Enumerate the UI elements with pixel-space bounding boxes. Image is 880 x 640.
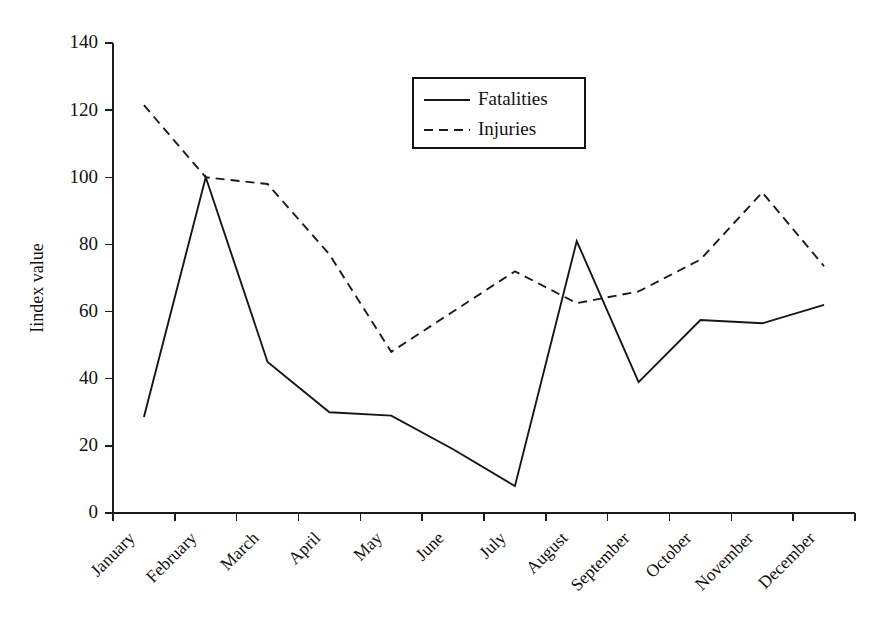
line-chart: 020406080100120140 Iindex value JanuaryF… [0, 0, 880, 640]
x-tick-label: December [754, 528, 819, 593]
chart-container: 020406080100120140 Iindex value JanuaryF… [0, 0, 880, 640]
x-tick-label: March [216, 528, 263, 575]
x-tick-label: April [284, 528, 324, 568]
legend: Fatalities Injuries [413, 78, 585, 148]
x-tick-label: June [411, 528, 448, 565]
x-tick-label: August [522, 528, 572, 578]
x-tick-label: July [475, 528, 510, 563]
x-tick-label: October [641, 528, 695, 582]
x-axis-ticks [113, 513, 855, 521]
y-axis-title: Iindex value [27, 243, 47, 332]
y-tick-label: 0 [89, 501, 99, 522]
y-tick-label: 100 [70, 166, 99, 187]
y-axis-group: 020406080100120140 Iindex value [27, 31, 113, 522]
data-series-group [144, 105, 824, 486]
legend-label-injuries: Injuries [478, 118, 536, 139]
x-tick-label: November [691, 528, 757, 594]
x-tick-label: February [142, 528, 201, 587]
y-tick-label: 20 [79, 434, 98, 455]
x-axis-tick-labels: JanuaryFebruaryMarchAprilMayJuneJulyAugu… [86, 528, 819, 595]
y-tick-label: 80 [79, 233, 98, 254]
x-tick-label: January [86, 528, 139, 581]
x-tick-label: May [349, 528, 386, 565]
x-axis-group: JanuaryFebruaryMarchAprilMayJuneJulyAugu… [86, 513, 855, 595]
y-tick-label: 140 [70, 31, 99, 52]
series-line-fatalities [144, 177, 824, 486]
y-tick-label: 40 [79, 367, 98, 388]
legend-label-fatalities: Fatalities [478, 88, 548, 109]
x-tick-label: September [566, 528, 633, 595]
y-axis-tick-labels: 020406080100120140 [70, 31, 99, 522]
y-tick-label: 60 [79, 300, 98, 321]
y-axis-ticks [105, 43, 113, 513]
y-tick-label: 120 [70, 99, 99, 120]
